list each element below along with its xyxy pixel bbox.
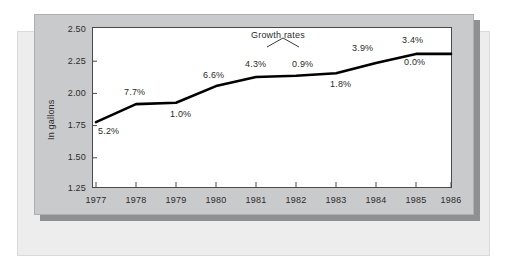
y-tick-label-1-25: 1.25	[58, 184, 86, 193]
x-tick-label-1981: 1981	[239, 196, 273, 205]
data-label-1980: 6.6%	[203, 71, 224, 80]
data-label-1981: 4.3%	[245, 60, 266, 69]
growth-rates-caption: Growth rates	[251, 31, 305, 40]
data-label-1985: 3.4%	[402, 36, 423, 45]
x-tick-label-1980: 1980	[199, 196, 233, 205]
x-tick-label-1983: 1983	[319, 196, 353, 205]
y-axis-title: In gallons	[46, 99, 56, 140]
y-tick-label-1-50: 1.50	[58, 153, 86, 162]
data-label-1986: 0.0%	[404, 58, 425, 67]
x-tick-label-1982: 1982	[279, 196, 313, 205]
data-label-1982: 0.9%	[292, 60, 313, 69]
data-label-1979: 1.0%	[170, 110, 191, 119]
y-tick-label-2-25: 2.25	[58, 57, 86, 66]
x-tick-label-1977: 1977	[79, 196, 113, 205]
chart-page: In gallons 2.50 2.25 2.00 1.75 1.50 1.25…	[0, 0, 508, 269]
y-tick-label-2-00: 2.00	[58, 89, 86, 98]
y-tick-label-2-50: 2.50	[58, 25, 86, 34]
y-tick-label-1-75: 1.75	[58, 121, 86, 130]
x-tick-label-1985: 1985	[399, 196, 433, 205]
data-label-1984: 3.9%	[352, 44, 373, 53]
data-label-1978: 7.7%	[124, 88, 145, 97]
x-tick-label-1978: 1978	[119, 196, 153, 205]
plot-area	[92, 27, 452, 188]
x-tick-label-1984: 1984	[359, 196, 393, 205]
x-tick-label-1979: 1979	[159, 196, 193, 205]
data-label-1983: 1.8%	[330, 80, 351, 89]
data-label-1977: 5.2%	[98, 127, 119, 136]
x-tick-label-1986: 1986	[434, 196, 468, 205]
